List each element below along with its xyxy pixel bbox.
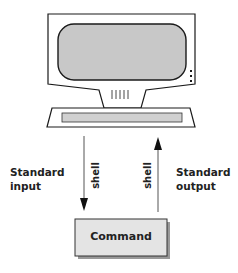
command-label: Command xyxy=(76,230,166,243)
standard-output-line1: Standard xyxy=(176,165,230,179)
standard-output-line2: output xyxy=(176,179,230,193)
indicator-lights-icon xyxy=(190,70,192,82)
standard-output-label: Standard output xyxy=(176,165,230,193)
standard-output-arrowhead-icon xyxy=(154,137,162,150)
standard-input-arrowhead-icon xyxy=(80,198,88,211)
keyboard-bar xyxy=(62,113,182,122)
standard-input-line2: input xyxy=(10,179,64,193)
standard-input-line1: Standard xyxy=(10,165,64,179)
monitor-screen xyxy=(58,24,186,80)
output-shell-label: shell xyxy=(142,162,153,189)
standard-input-label: Standard input xyxy=(10,165,64,193)
input-shell-label: shell xyxy=(90,162,101,189)
